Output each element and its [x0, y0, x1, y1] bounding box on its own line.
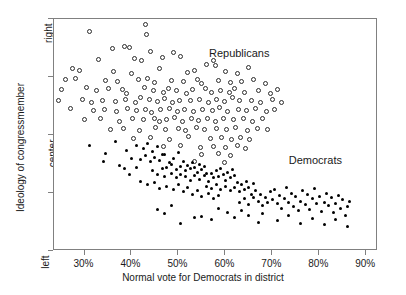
data-point-republican — [256, 88, 261, 93]
data-point-democrat — [128, 173, 131, 176]
x-tick-label: 90% — [345, 258, 385, 269]
data-point-republican — [239, 79, 244, 84]
data-point-republican — [180, 119, 185, 124]
data-point-republican — [204, 62, 209, 67]
data-point-republican — [222, 160, 227, 165]
data-point-democrat — [123, 167, 126, 170]
data-point-democrat — [104, 152, 107, 155]
data-point-democrat — [184, 169, 187, 172]
data-point-republican — [188, 98, 193, 103]
data-point-republican — [141, 117, 146, 122]
data-point-republican — [178, 143, 183, 148]
data-point-democrat — [184, 175, 187, 178]
data-point-democrat — [222, 173, 225, 176]
data-point-republican — [115, 79, 120, 84]
data-point-democrat — [280, 207, 283, 210]
data-point-republican — [216, 151, 221, 156]
data-point-republican — [117, 119, 122, 124]
data-point-democrat — [290, 192, 293, 195]
x-axis-title: Normal vote for Democrats in district — [0, 272, 406, 283]
data-point-democrat — [153, 181, 156, 184]
x-tick-mark — [365, 250, 366, 255]
data-point-democrat — [292, 205, 295, 208]
data-point-republican — [164, 117, 169, 122]
data-point-democrat — [149, 160, 152, 163]
data-point-republican — [177, 98, 182, 103]
data-point-republican — [241, 116, 246, 121]
data-point-republican — [199, 152, 204, 157]
scatter-plot-figure: Ideology of congressmember rightcenterle… — [0, 0, 406, 295]
data-point-democrat — [224, 179, 227, 182]
data-point-democrat — [200, 215, 203, 218]
data-point-democrat — [102, 160, 105, 163]
data-point-democrat — [224, 185, 227, 188]
x-tick-mark — [271, 250, 272, 255]
data-point-democrat — [182, 160, 185, 163]
data-point-democrat — [348, 200, 351, 203]
data-point-republican — [235, 143, 240, 148]
data-point-republican — [121, 126, 126, 131]
data-point-democrat — [339, 207, 342, 210]
data-point-democrat — [161, 167, 164, 170]
data-point-republican — [258, 100, 263, 105]
data-point-democrat — [341, 198, 344, 201]
data-point-republican — [103, 78, 108, 83]
data-point-democrat — [158, 159, 161, 162]
data-point-democrat — [151, 150, 154, 153]
data-point-republican — [143, 22, 148, 27]
data-point-democrat — [287, 201, 290, 204]
data-point-democrat — [276, 202, 279, 205]
data-point-republican — [108, 127, 113, 132]
data-point-republican — [270, 97, 275, 102]
data-point-democrat — [238, 190, 241, 193]
data-point-democrat — [229, 189, 232, 192]
data-point-republican — [235, 71, 240, 76]
data-point-republican — [166, 86, 171, 91]
data-point-republican — [250, 119, 255, 124]
data-point-republican — [233, 125, 238, 130]
data-point-republican — [131, 136, 136, 141]
data-point-democrat — [118, 164, 121, 167]
data-point-democrat — [283, 197, 286, 200]
data-point-democrat — [231, 168, 234, 171]
data-point-republican — [189, 116, 194, 121]
data-point-republican — [59, 87, 64, 92]
data-point-democrat — [285, 186, 288, 189]
data-point-democrat — [170, 163, 173, 166]
data-point-republican — [272, 107, 277, 112]
data-point-republican — [96, 57, 101, 62]
y-axis-title: Ideology of congressmember — [14, 0, 28, 295]
data-point-democrat — [233, 186, 236, 189]
data-point-democrat — [193, 174, 196, 177]
data-point-republican — [214, 97, 219, 102]
data-point-democrat — [254, 189, 257, 192]
data-point-democrat — [139, 180, 142, 183]
data-point-republican — [223, 69, 228, 74]
data-point-democrat — [247, 214, 250, 217]
y-tick-label: left — [40, 256, 51, 269]
data-point-democrat — [278, 194, 281, 197]
data-point-republican — [185, 70, 190, 75]
data-point-democrat — [247, 203, 250, 206]
data-point-republican — [152, 116, 157, 121]
data-point-republican — [152, 80, 157, 85]
data-point-republican — [161, 90, 166, 95]
data-point-democrat — [229, 176, 232, 179]
data-point-republican — [190, 87, 195, 92]
data-point-republican — [249, 98, 254, 103]
data-point-democrat — [156, 208, 159, 211]
data-point-republican — [182, 107, 187, 112]
data-point-republican — [208, 136, 213, 141]
data-point-republican — [217, 105, 222, 110]
data-point-democrat — [215, 169, 218, 172]
data-point-republican — [70, 66, 75, 71]
data-point-democrat — [151, 169, 154, 172]
data-point-republican — [213, 63, 218, 68]
data-point-republican — [172, 115, 177, 120]
data-point-democrat — [233, 174, 236, 177]
data-point-democrat — [243, 197, 246, 200]
data-point-democrat — [196, 171, 199, 174]
data-point-republican — [149, 110, 154, 115]
data-point-democrat — [203, 165, 206, 168]
data-point-democrat — [146, 183, 149, 186]
